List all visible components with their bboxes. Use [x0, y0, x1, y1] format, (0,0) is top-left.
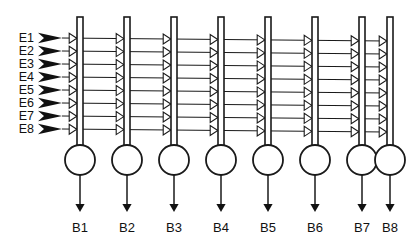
neural-network-diagram: E1E2E3E4E5E6E7E8 B1B2B3B4B5B6B7B8: [0, 0, 417, 248]
dendrite-shaft-b5: [265, 17, 271, 147]
dendrite-shaft-b8: [387, 17, 393, 147]
soma-circle-b2: [112, 145, 142, 175]
output-label-b6: B6: [307, 220, 323, 235]
dendrite-shaft-b3: [171, 17, 177, 147]
soma-circle-b4: [206, 145, 236, 175]
input-label-e1: E1: [19, 31, 34, 45]
input-label-e2: E2: [19, 44, 34, 58]
output-label-b1: B1: [72, 220, 88, 235]
soma-circle-b7: [347, 145, 377, 175]
output-label-b8: B8: [382, 220, 398, 235]
output-label-b2: B2: [119, 220, 135, 235]
soma-circle-b1: [65, 145, 95, 175]
dendrite-shaft-b6: [312, 17, 318, 147]
input-label-e7: E7: [19, 109, 34, 123]
diagram-canvas: E1E2E3E4E5E6E7E8 B1B2B3B4B5B6B7B8: [0, 0, 417, 248]
output-label-b5: B5: [260, 220, 276, 235]
dendrite-shaft-b2: [124, 17, 130, 147]
soma-circle-b6: [300, 145, 330, 175]
output-label-b3: B3: [166, 220, 182, 235]
input-labels-group: E1E2E3E4E5E6E7E8: [19, 31, 34, 136]
dendrite-shaft-b7: [359, 17, 365, 147]
soma-circle-b5: [253, 145, 283, 175]
input-label-e8: E8: [19, 122, 34, 136]
output-label-b4: B4: [213, 220, 229, 235]
dendrite-shaft-b4: [218, 17, 224, 147]
output-label-b7: B7: [354, 220, 370, 235]
dendrite-shaft-b1: [77, 17, 83, 147]
diagram-background: [0, 0, 417, 248]
soma-circle-b8: [375, 145, 405, 175]
input-label-e6: E6: [19, 96, 34, 110]
soma-circle-b3: [159, 145, 189, 175]
input-label-e5: E5: [19, 83, 34, 97]
input-label-e3: E3: [19, 57, 34, 71]
input-label-e4: E4: [19, 70, 34, 84]
